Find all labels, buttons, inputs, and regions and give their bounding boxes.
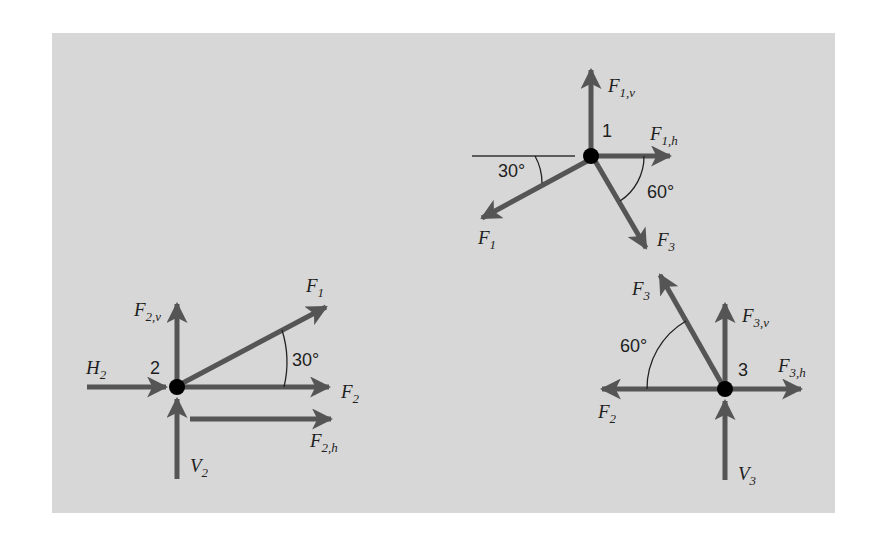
node-1-group: 1 F1,v F1,h 30° 60° F1 F3 [472, 70, 678, 254]
label-f3h-node3: F3,h [777, 355, 806, 380]
angle-label-30-node1: 30° [498, 161, 525, 181]
angle-arc-30-node2 [282, 330, 287, 387]
arrow-f3-node1 [594, 159, 646, 248]
node-1-dot [583, 148, 599, 164]
label-v2-node2: V2 [190, 455, 209, 480]
label-f2h-node2: F2,h [309, 430, 338, 455]
node-3-label: 3 [738, 360, 748, 380]
arrow-f3-node3 [660, 275, 723, 386]
label-f3-node3: F3 [631, 278, 651, 303]
label-f2v-node2: F2,v [133, 299, 161, 324]
node-3-dot [717, 381, 733, 397]
label-f2-node3: F2 [597, 401, 617, 426]
label-f2-node2: F2 [340, 381, 360, 406]
label-h2-node2: H2 [85, 357, 107, 382]
label-f3-node1: F3 [656, 229, 676, 254]
angle-arc-30-node1 [535, 156, 542, 183]
label-f3v-node3: F3,v [741, 305, 769, 330]
angle-arc-60-node1 [620, 156, 644, 201]
node-3-group: 3 F3 60° F3,v F3,h F2 V3 [597, 275, 806, 488]
label-f1-node2: F1 [305, 275, 324, 300]
node-2-group: 2 H2 F2,v F1 30° F2 F2,h V2 [85, 275, 360, 480]
label-f1v-node1: F1,v [607, 75, 635, 100]
node-2-label: 2 [150, 358, 160, 378]
angle-label-60-node3: 60° [620, 336, 647, 356]
label-f1-node1: F1 [477, 227, 496, 252]
node-2-dot [169, 379, 185, 395]
angle-label-60-node1: 60° [647, 182, 674, 202]
label-f1h-node1: F1,h [649, 123, 678, 148]
node-1-label: 1 [602, 121, 612, 141]
force-diagram: 1 F1,v F1,h 30° 60° F1 F3 2 H2 F2,v F1 3… [0, 0, 878, 535]
label-v3-node3: V3 [738, 463, 757, 488]
angle-label-30-node2: 30° [292, 350, 319, 370]
angle-arc-60-node3 [647, 321, 686, 389]
arrow-f1-node2 [179, 307, 326, 385]
